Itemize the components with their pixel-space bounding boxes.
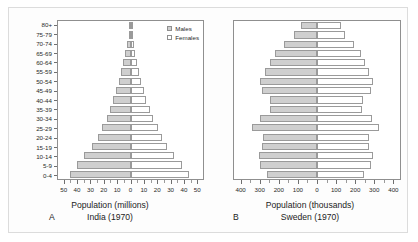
x-axis-tick: [279, 180, 280, 184]
male-half: [234, 170, 317, 179]
female-half: [317, 123, 400, 132]
pyramid-row: [58, 86, 203, 95]
x-axis-tick: [131, 180, 132, 184]
bar-female: [131, 59, 138, 66]
bar-male: [119, 78, 131, 85]
pyramid-row: [58, 49, 203, 58]
female-half: [317, 77, 400, 86]
y-axis-tick-label: 5-9: [9, 161, 55, 170]
female-half: [131, 105, 204, 114]
male-half: [58, 151, 131, 160]
x-axis-minor-tick: [250, 180, 251, 183]
x-axis-tick: [336, 180, 337, 184]
pyramid-row: [234, 114, 400, 123]
x-axis-tick-label: 400: [235, 186, 245, 193]
pyramid-row: [58, 123, 203, 132]
bar-rows-sweden: [234, 21, 400, 179]
bar-female: [131, 68, 140, 75]
bar-male: [252, 124, 317, 131]
bar-female: [131, 78, 142, 85]
x-axis-tick-label: 10: [140, 186, 147, 193]
female-half: [317, 86, 400, 95]
x-axis-minor-tick: [151, 180, 152, 183]
plot-area-india: Males Females: [57, 20, 204, 180]
female-half: [131, 133, 204, 142]
x-axis-minor-tick: [110, 180, 111, 183]
y-axis-tick-label: 55-59: [9, 67, 55, 76]
male-half: [58, 30, 131, 39]
male-half: [234, 30, 317, 39]
pyramid-row: [234, 151, 400, 160]
x-axis-tick: [104, 180, 105, 184]
x-axis-minor-tick: [70, 180, 71, 183]
bar-female: [317, 115, 372, 122]
y-axis-tick-label: 40-44: [9, 95, 55, 104]
y-axis-tick-label: 20-24: [9, 133, 55, 142]
female-half: [131, 58, 204, 67]
bar-male: [98, 134, 131, 141]
figure-container: 0-45-910-1415-1920-2425-2930-3435-3940-4…: [8, 7, 408, 233]
pyramid-row: [234, 170, 400, 179]
x-axis-tick: [355, 180, 356, 184]
pyramid-row: [234, 160, 400, 169]
female-half: [317, 160, 400, 169]
x-axis-title-india: Population (millions): [9, 200, 211, 210]
bar-male: [70, 171, 131, 178]
bar-female: [317, 106, 362, 113]
x-axis-labels-india: 504030201001020304050: [57, 186, 204, 198]
legend-item-females: Females: [167, 34, 199, 41]
pyramid-row: [58, 133, 203, 142]
legend-india: Males Females: [167, 25, 199, 41]
x-axis-minor-tick: [327, 180, 328, 183]
x-axis-tick-label: 300: [369, 186, 379, 193]
male-half: [234, 142, 317, 151]
bar-female: [317, 96, 363, 103]
y-axis-tick-label: 15-19: [9, 142, 55, 151]
pyramid-row: [234, 40, 400, 49]
x-axis-ticks-india: [57, 180, 204, 185]
male-half: [58, 142, 131, 151]
male-half: [234, 151, 317, 160]
bar-male: [284, 41, 317, 48]
pyramid-row: [234, 30, 400, 39]
female-half: [317, 40, 400, 49]
legend-label-males: Males: [175, 25, 192, 32]
pyramid-row: [234, 142, 400, 151]
pyramid-row: [58, 160, 203, 169]
male-half: [58, 133, 131, 142]
pyramid-row: [234, 77, 400, 86]
male-half: [58, 95, 131, 104]
x-axis-tick-label: 20: [100, 186, 107, 193]
male-half: [234, 21, 317, 30]
x-axis-minor-tick: [124, 180, 125, 183]
x-axis-tick: [117, 180, 118, 184]
bar-male: [301, 22, 317, 29]
x-axis-tick: [317, 180, 318, 184]
panel-sweden: 4003002001000100200300400 Population (th…: [211, 8, 409, 234]
male-half: [58, 67, 131, 76]
x-axis-tick-label: 200: [274, 186, 284, 193]
bar-female: [317, 78, 373, 85]
female-half: [317, 67, 400, 76]
x-axis-labels-sweden: 4003002001000100200300400: [233, 186, 401, 198]
x-axis-minor-tick: [177, 180, 178, 183]
y-axis-tick-label: 80+: [9, 20, 55, 29]
y-axis-tick-label: 75-79: [9, 30, 55, 39]
male-half: [58, 170, 131, 179]
y-axis-tick-label: 0-4: [9, 171, 55, 180]
pyramid-row: [58, 105, 203, 114]
x-axis-tick-label: 300: [255, 186, 265, 193]
bar-female: [317, 161, 371, 168]
male-half: [58, 123, 131, 132]
y-axis-labels-india: 0-45-910-1415-1920-2425-2930-3435-3940-4…: [9, 20, 55, 180]
x-axis-minor-tick: [365, 180, 366, 183]
female-half: [317, 49, 400, 58]
y-axis-tick-label: 25-29: [9, 124, 55, 133]
female-half: [131, 86, 204, 95]
panel-caption-sweden: Sweden (1970): [211, 212, 409, 222]
bar-female: [131, 115, 153, 122]
male-half: [58, 21, 131, 30]
x-axis-tick: [393, 180, 394, 184]
x-axis-tick-label: 50: [60, 186, 67, 193]
pyramid-row: [234, 105, 400, 114]
